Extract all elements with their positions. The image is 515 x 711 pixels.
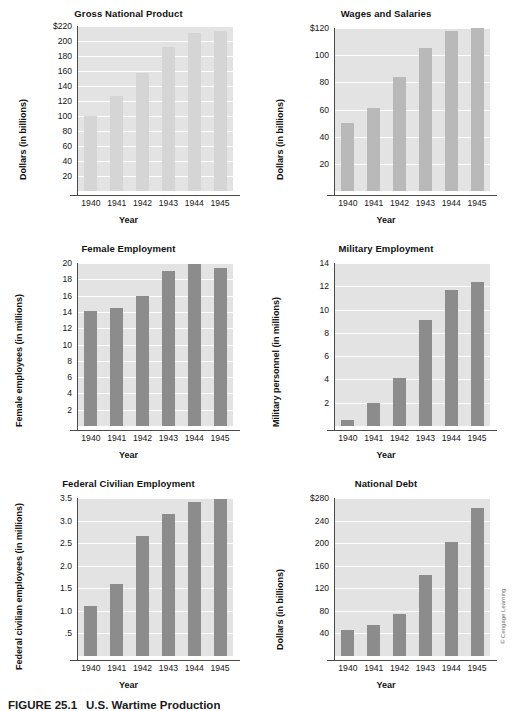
chart-y-tick-label: 80	[0, 126, 72, 136]
chart-gridline	[78, 361, 233, 362]
chart-gridline	[78, 116, 233, 117]
chart-y-tick-label: 80	[257, 606, 329, 616]
chart-gridline	[335, 633, 490, 634]
chart-gridline	[78, 279, 233, 280]
chart-panel-wages-and-salaries: Wages and Salaries Dollars (in billions)…	[257, 2, 515, 235]
chart-bar	[341, 123, 354, 191]
chart-y-tick-label: 8	[257, 328, 329, 338]
chart-gridline	[335, 379, 490, 380]
chart-y-tick-label: 60	[0, 141, 72, 151]
chart-y-tick-label: .5	[0, 628, 72, 638]
chart-gridline	[78, 86, 233, 87]
chart-y-tick-label: 200	[0, 36, 72, 46]
chart-bar	[393, 77, 406, 191]
chart-gridline	[78, 131, 233, 132]
chart-gridline	[78, 521, 233, 522]
chart-x-axis-label: Year	[0, 450, 257, 460]
chart-gridline	[78, 588, 233, 589]
chart-y-tick-label: 80	[257, 77, 329, 87]
chart-y-tick-label: 14	[257, 258, 329, 268]
chart-plot-area	[335, 498, 490, 656]
chart-y-tick-label: 1.5	[0, 583, 72, 593]
chart-y-tick-label: 8	[0, 356, 72, 366]
chart-gridline	[78, 263, 233, 264]
chart-gridline	[78, 498, 233, 499]
chart-bar	[471, 282, 484, 426]
chart-gridline	[78, 71, 233, 72]
chart-x-axis-line	[70, 430, 240, 431]
chart-y-tick-label: 200	[257, 538, 329, 548]
chart-y-tick-label: 10	[257, 305, 329, 315]
chart-gridline	[78, 410, 233, 411]
chart-bar	[162, 47, 175, 191]
chart-x-axis-line	[327, 430, 497, 431]
chart-title: Federal Civilian Employment	[0, 478, 257, 489]
chart-gridline	[335, 333, 490, 334]
figure-chart-grid: Gross National Product Dollars (in billi…	[0, 0, 515, 711]
chart-y-tick-label: 3.0	[0, 516, 72, 526]
chart-gridline	[335, 263, 490, 264]
chart-y-tick-label: 6	[0, 372, 72, 382]
chart-bar	[341, 420, 354, 426]
chart-x-tick-label: 1945	[205, 433, 235, 443]
figure-caption: FIGURE 25.1U.S. Wartime Production	[8, 699, 428, 711]
chart-gridline	[78, 611, 233, 612]
chart-gridline	[335, 164, 490, 165]
chart-bar	[110, 96, 123, 191]
chart-y-tick-label: 1.0	[0, 606, 72, 616]
chart-gridline	[335, 543, 490, 544]
chart-x-tick-label: 1945	[205, 198, 235, 208]
chart-bar	[136, 73, 149, 192]
chart-title: Female Employment	[0, 243, 257, 254]
chart-y-tick-label: 40	[257, 132, 329, 142]
chart-bar	[419, 48, 432, 191]
chart-bar	[84, 606, 97, 656]
chart-x-tick-label: 1945	[205, 663, 235, 673]
chart-y-tick-label: 20	[0, 258, 72, 268]
chart-y-tick-label: 3.5	[0, 493, 72, 503]
chart-y-axis-line	[334, 263, 335, 430]
chart-gridline	[335, 521, 490, 522]
chart-x-axis-label: Year	[257, 450, 515, 460]
chart-y-tick-label: 18	[0, 274, 72, 284]
chart-gridline	[335, 28, 490, 29]
chart-gridline	[335, 356, 490, 357]
chart-panel-gross-national-product: Gross National Product Dollars (in billi…	[0, 2, 257, 235]
chart-y-tick-label: 16	[0, 291, 72, 301]
chart-bar	[214, 268, 227, 426]
chart-gridline	[335, 403, 490, 404]
chart-y-axis-line	[77, 26, 78, 195]
chart-gridline	[78, 377, 233, 378]
chart-x-tick-label: 1945	[462, 433, 492, 443]
chart-y-tick-label: 20	[257, 159, 329, 169]
chart-gridline	[78, 56, 233, 57]
chart-x-axis-label: Year	[0, 215, 257, 225]
chart-bar	[393, 614, 406, 656]
chart-x-axis-label: Year	[257, 215, 515, 225]
chart-y-tick-label: 100	[0, 111, 72, 121]
chart-gridline	[78, 161, 233, 162]
chart-title: Military Employment	[257, 243, 515, 254]
chart-y-tick-label: 40	[0, 156, 72, 166]
chart-plot-area	[78, 263, 233, 426]
chart-gridline	[335, 110, 490, 111]
chart-x-tick-label: 1945	[462, 198, 492, 208]
chart-bar	[214, 31, 227, 191]
chart-y-axis-line	[334, 498, 335, 660]
chart-y-tick-label: $220	[0, 21, 72, 31]
chart-gridline	[335, 137, 490, 138]
chart-x-axis-line	[70, 660, 240, 661]
chart-y-tick-label: 2.0	[0, 561, 72, 571]
chart-y-axis-line	[334, 28, 335, 195]
chart-y-tick-label: $280	[257, 493, 329, 503]
chart-bar	[367, 403, 380, 426]
chart-gridline	[78, 26, 233, 27]
chart-bar	[445, 31, 458, 191]
chart-gridline	[78, 101, 233, 102]
chart-gridline	[78, 296, 233, 297]
chart-bar	[341, 630, 354, 656]
chart-bar	[84, 116, 97, 191]
chart-gridline	[335, 498, 490, 499]
chart-y-tick-label: 2.5	[0, 538, 72, 548]
figure-caption-text: U.S. Wartime Production	[86, 699, 220, 711]
